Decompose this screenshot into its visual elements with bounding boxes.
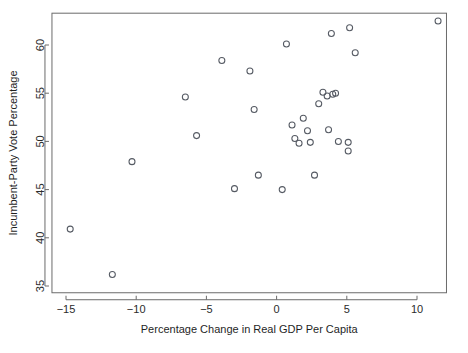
x-axis-tick-label: −10 <box>127 303 146 315</box>
y-axis-tick-label: 45 <box>34 183 46 195</box>
y-axis-tick-label: 50 <box>34 135 46 147</box>
data-point <box>345 139 351 145</box>
data-point <box>307 139 313 145</box>
x-axis-tick-label: −15 <box>57 303 76 315</box>
data-point <box>109 271 115 277</box>
data-point <box>289 122 295 128</box>
data-point <box>247 68 253 74</box>
x-axis-tick-label: −5 <box>200 303 213 315</box>
data-point <box>328 30 334 36</box>
data-point <box>435 18 441 24</box>
scatter-plot-figure: 354045505560−15−10−50510Percentage Chang… <box>0 0 468 353</box>
data-point <box>316 101 322 107</box>
x-axis-tick-label: 0 <box>274 303 280 315</box>
data-point <box>347 25 353 31</box>
plot-frame <box>52 13 447 293</box>
data-point <box>304 128 310 134</box>
y-axis-tick-label: 60 <box>34 39 46 51</box>
plot-canvas: 354045505560−15−10−50510Percentage Chang… <box>0 0 468 353</box>
data-point <box>251 107 257 113</box>
data-point <box>312 172 318 178</box>
data-point <box>194 133 200 139</box>
data-point <box>335 138 341 144</box>
data-point <box>219 57 225 63</box>
data-point <box>129 159 135 165</box>
data-point <box>67 226 73 232</box>
data-point <box>255 172 261 178</box>
y-axis-tick-label: 55 <box>34 87 46 99</box>
y-axis-title: Incumbent-Party Vote Percentage <box>7 70 19 235</box>
y-axis-tick-label: 35 <box>34 280 46 292</box>
data-point <box>231 186 237 192</box>
data-point <box>283 41 289 47</box>
x-axis-tick-label: 5 <box>344 303 350 315</box>
x-axis-tick-label: 10 <box>411 303 423 315</box>
data-point <box>296 140 302 146</box>
data-point <box>352 50 358 56</box>
x-axis-title: Percentage Change in Real GDP Per Capita <box>141 323 359 335</box>
data-point <box>345 148 351 154</box>
data-point <box>300 115 306 121</box>
data-point <box>182 94 188 100</box>
data-point <box>326 127 332 133</box>
data-point <box>279 187 285 193</box>
y-axis-tick-label: 40 <box>34 232 46 244</box>
